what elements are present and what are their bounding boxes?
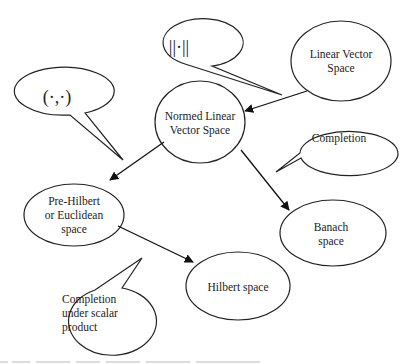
callout-norm-label: ||·|| (169, 37, 189, 57)
callout-label-line: Completion (62, 292, 118, 306)
node-hilbert-space: Hilbert space (208, 280, 269, 294)
callout-completion-scalar-label: Completion under scalar product (62, 292, 118, 334)
callout-label-line: under scalar (62, 306, 118, 320)
edge-prehilbert-to-hilbert (118, 226, 193, 262)
node-label: Hilbert space (208, 280, 269, 294)
node-label: Space (310, 61, 373, 75)
node-label: or Euclidean (45, 208, 103, 222)
edge-normed-to-prehilbert (110, 142, 164, 180)
node-label: Linear Vector (310, 47, 373, 61)
node-pre-hilbert: Pre-Hilbert or Euclidean space (45, 194, 103, 236)
node-label: Pre-Hilbert (45, 194, 103, 208)
edge-normed-to-banach (241, 150, 289, 210)
callout-label-line: product (62, 320, 118, 334)
node-label: space (314, 234, 348, 248)
callout-inner-product-label: (·,·) (43, 87, 71, 107)
node-label: Normed Linear (165, 109, 236, 123)
edge-linear-to-normed (245, 91, 307, 111)
node-label: space (45, 222, 103, 236)
callout-completion-label: Completion (312, 131, 366, 145)
callout-inner-product-shape (14, 67, 123, 160)
node-linear-vector-space: Linear Vector Space (310, 47, 373, 75)
node-label: Banach (314, 220, 348, 234)
node-label: Vector Space (165, 123, 236, 137)
cropped-caption-fragment (0, 357, 260, 364)
node-normed-linear-vector-space: Normed Linear Vector Space (165, 109, 236, 137)
node-banach-space: Banach space (314, 220, 348, 248)
